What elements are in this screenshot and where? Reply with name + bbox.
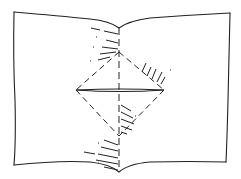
horizontal-fold [76,89,164,92]
diamond-fold [76,52,164,136]
folding-diagram [0,0,241,179]
upper-right-hatch [142,63,171,84]
upper-left-hatch [90,28,118,61]
lower-center-hatch [121,105,136,134]
bottom-hatch [84,140,118,170]
